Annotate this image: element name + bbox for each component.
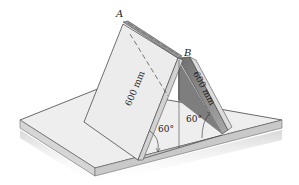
hinged-plates-diagram [0, 0, 299, 185]
left-angle-label: 60° [158, 125, 174, 134]
right-angle-label: 60° [186, 115, 202, 124]
point-label-a: A [116, 9, 123, 19]
point-label-b: B [184, 48, 191, 58]
